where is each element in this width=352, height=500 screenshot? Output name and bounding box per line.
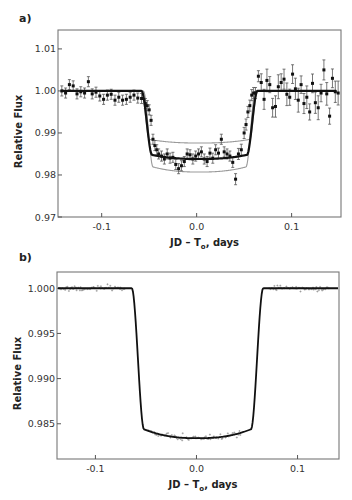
data-marker [220, 138, 223, 141]
data-marker [166, 152, 169, 155]
light-curve-figure: 0.970.980.991.001.01-0.10.00.1JD – To, d… [0, 0, 352, 500]
data-marker [300, 291, 302, 293]
data-marker [316, 291, 318, 293]
data-marker [263, 98, 266, 101]
data-marker [148, 108, 151, 111]
data-marker [214, 148, 217, 151]
data-marker [265, 79, 268, 82]
data-marker [227, 432, 229, 434]
data-marker [109, 285, 111, 287]
data-marker [110, 93, 113, 96]
data-marker [260, 81, 263, 84]
x-tick-label: 0.1 [290, 463, 305, 474]
panel-a-chart: 0.970.980.991.001.01-0.10.00.1JD – To, d… [13, 30, 341, 251]
data-marker [205, 435, 207, 437]
plot-frame [57, 272, 339, 459]
data-marker [117, 96, 120, 99]
data-marker [268, 83, 271, 86]
data-points [59, 283, 330, 441]
data-marker [325, 92, 328, 95]
data-marker [239, 434, 241, 436]
data-marker [72, 84, 75, 87]
data-marker [121, 289, 123, 291]
data-marker [97, 285, 99, 287]
data-marker [297, 99, 300, 102]
data-marker [314, 101, 317, 104]
data-marker [75, 92, 78, 95]
data-marker [337, 92, 340, 95]
data-marker [206, 160, 209, 163]
data-marker [107, 283, 109, 285]
data-marker [274, 105, 277, 108]
data-marker [194, 155, 197, 158]
y-tick-label: 0.995 [28, 328, 55, 339]
data-marker [223, 150, 226, 153]
data-marker [328, 115, 331, 118]
data-marker [91, 92, 94, 95]
data-marker [300, 83, 303, 86]
data-marker [322, 68, 325, 71]
data-marker [68, 83, 71, 86]
data-marker [226, 152, 229, 155]
data-marker [239, 430, 241, 432]
data-marker [231, 161, 234, 164]
data-marker [305, 96, 308, 99]
data-marker [277, 85, 280, 88]
y-tick-label: 0.98 [35, 169, 56, 180]
data-marker [150, 119, 153, 122]
data-marker [76, 289, 78, 291]
data-marker [237, 152, 240, 155]
data-marker [234, 178, 237, 181]
data-marker [74, 285, 76, 287]
data-marker [279, 285, 281, 287]
data-marker [200, 150, 203, 153]
data-marker [177, 438, 179, 440]
x-tick-label: -0.1 [92, 221, 111, 232]
data-marker [121, 99, 124, 102]
y-tick-label: 1.000 [28, 283, 55, 294]
x-tick-label: -0.1 [86, 463, 105, 474]
data-marker [167, 432, 169, 434]
data-marker [271, 106, 274, 109]
data-marker [257, 75, 260, 78]
data-marker [248, 104, 251, 107]
data-marker [243, 131, 246, 134]
data-marker [111, 290, 113, 292]
data-marker [113, 99, 116, 102]
data-marker [302, 102, 305, 105]
data-marker [308, 110, 311, 113]
data-marker [283, 78, 286, 81]
data-points [60, 60, 339, 185]
y-axis-title: Relative Flux [13, 94, 24, 168]
data-marker [240, 148, 243, 151]
data-marker [102, 98, 105, 101]
data-marker [100, 285, 102, 287]
data-marker [194, 436, 196, 438]
data-marker [180, 164, 183, 167]
x-tick-label: 0.0 [189, 221, 204, 232]
data-marker [280, 81, 283, 84]
panel-b-chart: 0.9850.9900.9951.000-0.10.00.1JD – To, d… [12, 272, 339, 493]
data-marker [331, 77, 334, 80]
data-marker [236, 437, 238, 439]
data-marker [182, 432, 184, 434]
y-tick-label: 1.00 [35, 85, 56, 96]
data-marker [217, 152, 220, 155]
data-marker [68, 290, 70, 292]
data-marker [209, 434, 211, 436]
y-tick-label: 1.01 [35, 43, 56, 54]
data-marker [245, 123, 248, 126]
data-marker [157, 435, 159, 437]
y-tick-label: 0.985 [28, 418, 55, 429]
x-axis-title: JD – To, days [168, 479, 238, 493]
model-curve-best-fit [58, 288, 338, 438]
x-tick-label: 0.0 [189, 463, 204, 474]
data-marker [132, 94, 135, 97]
data-marker [87, 80, 90, 83]
data-marker [311, 82, 314, 85]
y-axis-title: Relative Flux [12, 336, 23, 410]
data-marker [174, 163, 177, 166]
data-marker [197, 152, 200, 155]
data-marker [273, 285, 275, 287]
y-tick-label: 0.990 [28, 373, 55, 384]
